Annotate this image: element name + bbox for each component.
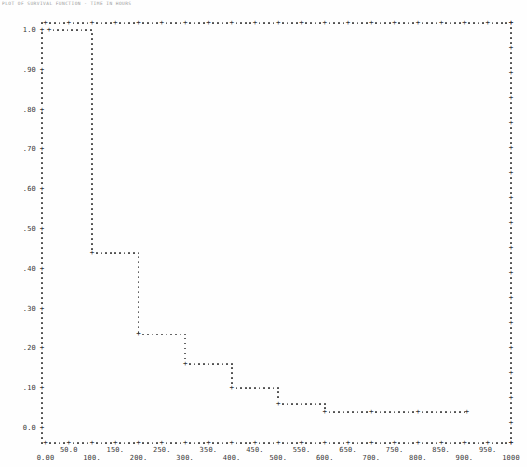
left-axis-dot xyxy=(41,432,43,434)
right-axis-dot xyxy=(510,327,512,329)
curve-dot xyxy=(273,387,275,389)
curve-dot xyxy=(343,411,345,413)
bottom-axis-dot xyxy=(96,442,98,444)
left-axis-dot xyxy=(41,202,43,204)
right-axis-dot xyxy=(510,427,512,429)
left-axis-dot xyxy=(41,172,43,174)
curve-dot xyxy=(161,334,163,336)
curve-dot xyxy=(138,306,140,308)
top-axis-dot xyxy=(357,22,359,24)
right-axis-dot xyxy=(510,312,512,314)
left-axis-dot xyxy=(41,42,43,44)
top-axis-dot xyxy=(59,22,61,24)
curve-dot xyxy=(91,103,93,105)
right-axis-dot xyxy=(510,262,512,264)
right-axis-dot xyxy=(510,87,512,89)
curve-dot xyxy=(222,363,224,365)
curve-dot xyxy=(459,411,461,413)
curve-dot xyxy=(138,261,140,263)
right-axis-dot xyxy=(510,52,512,54)
bottom-axis-dot xyxy=(403,442,405,444)
top-axis-dot xyxy=(189,22,191,24)
bottom-axis-dot xyxy=(478,442,480,444)
bottom-axis-dot xyxy=(180,442,182,444)
curve-dot xyxy=(91,73,93,75)
x-tick-label-upper: 150. xyxy=(102,446,128,454)
bottom-axis-dot xyxy=(426,442,428,444)
curve-dot xyxy=(352,411,354,413)
left-axis-dot xyxy=(41,132,43,134)
top-axis-dot xyxy=(478,22,480,24)
bottom-axis-dot xyxy=(398,442,400,444)
left-axis-dot xyxy=(41,337,43,339)
left-axis-dot xyxy=(41,197,43,199)
curve-dot xyxy=(76,29,78,31)
curve-dot xyxy=(91,168,93,170)
right-axis-dot xyxy=(510,232,512,234)
left-axis-dot xyxy=(41,317,43,319)
left-axis-tick: + xyxy=(40,424,45,431)
right-axis-tick: + xyxy=(509,169,514,176)
left-axis-dot xyxy=(41,412,43,414)
top-axis-dot xyxy=(343,22,345,24)
curve-dot xyxy=(398,411,400,413)
left-axis-dot xyxy=(41,97,43,99)
bottom-axis-dot xyxy=(389,442,391,444)
bottom-axis-dot xyxy=(315,442,317,444)
top-axis-dot xyxy=(473,22,475,24)
curve-dot xyxy=(91,233,93,235)
right-axis-dot xyxy=(510,227,512,229)
left-axis-dot xyxy=(41,442,43,444)
x-tick-label-lower: 300. xyxy=(172,454,198,462)
curve-dot xyxy=(138,296,140,298)
right-axis-dot xyxy=(510,202,512,204)
bottom-axis-dot xyxy=(329,442,331,444)
top-axis-tick: + xyxy=(136,19,141,26)
curve-dot xyxy=(124,252,126,254)
curve-dot xyxy=(333,411,335,413)
right-axis-tick: + xyxy=(509,319,514,326)
left-axis-dot xyxy=(41,402,43,404)
left-axis-dot xyxy=(41,417,43,419)
curve-dot xyxy=(268,387,270,389)
bottom-axis-dot xyxy=(468,442,470,444)
curve-dot xyxy=(91,83,93,85)
bottom-axis-dot xyxy=(147,442,149,444)
top-axis-dot xyxy=(147,22,149,24)
x-tick-label-upper: 250. xyxy=(149,446,175,454)
bottom-axis-dot xyxy=(408,442,410,444)
curve-dot xyxy=(91,238,93,240)
curve-dot xyxy=(231,367,233,369)
curve-dot xyxy=(91,163,93,165)
top-axis-dot xyxy=(82,22,84,24)
curve-dot xyxy=(91,118,93,120)
left-axis-dot xyxy=(41,397,43,399)
right-axis-dot xyxy=(510,57,512,59)
bottom-axis-dot xyxy=(142,442,144,444)
curve-dot xyxy=(305,403,307,405)
x-tick-label-upper: 850. xyxy=(428,446,454,454)
x-tick-label-upper: 450. xyxy=(242,446,268,454)
curve-dot xyxy=(408,411,410,413)
left-axis-tick: + xyxy=(40,305,45,312)
left-axis-dot xyxy=(41,92,43,94)
top-axis-dot xyxy=(287,22,289,24)
curve-plus-marker: + xyxy=(90,249,95,256)
curve-dot xyxy=(91,58,93,60)
top-axis-dot xyxy=(194,22,196,24)
curve-dot xyxy=(394,411,396,413)
left-axis-dot xyxy=(41,377,43,379)
left-axis-dot xyxy=(41,372,43,374)
bottom-axis-tick: + xyxy=(136,439,141,446)
bottom-axis-dot xyxy=(492,442,494,444)
curve-dot xyxy=(138,316,140,318)
left-axis-dot xyxy=(41,127,43,129)
curve-dot xyxy=(133,252,135,254)
curve-dot xyxy=(138,276,140,278)
curve-dot xyxy=(114,252,116,254)
curve-dot xyxy=(450,411,452,413)
curve-dot xyxy=(147,334,149,336)
left-axis-dot xyxy=(41,327,43,329)
curve-dot xyxy=(138,271,140,273)
top-axis-dot xyxy=(412,22,414,24)
